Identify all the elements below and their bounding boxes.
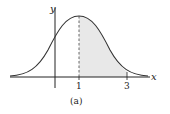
normal-curve-diagram: y x 1 3 (a) bbox=[0, 0, 170, 114]
y-axis-label: y bbox=[49, 3, 56, 14]
figure-caption: (a) bbox=[70, 96, 82, 106]
tick-label-1: 1 bbox=[76, 81, 82, 91]
shaded-area bbox=[79, 16, 127, 77]
x-axis-label: x bbox=[151, 71, 157, 82]
tick-label-3: 3 bbox=[124, 81, 130, 91]
